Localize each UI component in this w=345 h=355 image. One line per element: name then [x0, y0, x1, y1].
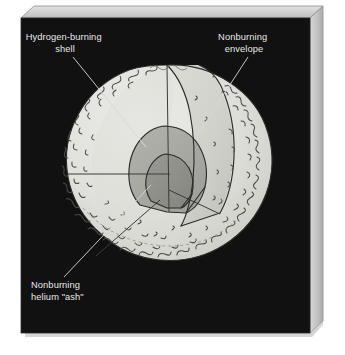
label-nonburning-envelope: Nonburning envelope: [218, 32, 270, 54]
figure-root: Hydrogen-burning shell Nonburning envelo…: [0, 0, 345, 355]
label-nonburning-envelope-line-1: Nonburning: [218, 32, 267, 42]
label-nonburning-envelope-line-2: envelope: [225, 44, 264, 54]
label-hydrogen-burning-shell-line-2: shell: [55, 44, 75, 54]
panel-bevel-top: [21, 6, 323, 18]
panel-bevel-right: [310, 6, 323, 333]
label-nonburning-helium-ash: Nonburning helium "ash": [31, 280, 84, 302]
star-cutaway-diagram: Hydrogen-burning shell Nonburning envelo…: [0, 0, 345, 355]
label-nonburning-helium-ash-line-2: helium "ash": [31, 292, 84, 302]
label-hydrogen-burning-shell-line-1: Hydrogen-burning: [26, 32, 102, 42]
label-nonburning-helium-ash-line-1: Nonburning: [31, 280, 80, 290]
